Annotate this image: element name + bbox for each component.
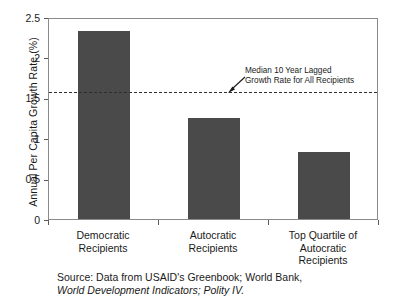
bar-democratic-recipients <box>78 31 130 219</box>
annotation-arrow-icon <box>225 76 247 94</box>
x-label-line: Recipients <box>158 242 268 255</box>
x-tick-mark <box>378 220 379 225</box>
median-annotation-line2: Growth Rate for All Recipients <box>245 76 354 86</box>
x-category-label-autocratic: Autocratic Recipients <box>158 229 268 254</box>
median-annotation-label: Median 10 Year Lagged Growth Rate for Al… <box>245 66 354 86</box>
x-tick-mark <box>268 220 269 225</box>
x-category-label-democratic: Democratic Recipients <box>48 229 158 254</box>
x-label-line: Top Quartile of <box>268 229 378 242</box>
x-label-line: Recipients <box>268 254 378 267</box>
y-tick-label-1.5: 1.5 <box>14 93 40 103</box>
x-tick-mark <box>158 220 159 225</box>
x-label-line: Democratic <box>48 229 158 242</box>
x-category-label-top-quartile: Top Quartile of Autocratic Recipients <box>268 229 378 267</box>
y-tick-label-0.5: 0.5 <box>14 174 40 184</box>
median-annotation-line1: Median 10 Year Lagged <box>245 66 354 76</box>
plot-area: Median 10 Year Lagged Growth Rate for Al… <box>48 18 378 220</box>
y-tick-label-0: 0 <box>14 215 40 225</box>
source-line-2: World Development Indicators; Polity IV. <box>57 284 387 297</box>
y-tick-label-1: 1 <box>14 134 40 144</box>
x-label-line: Autocratic <box>158 229 268 242</box>
source-line-1: Source: Data from USAID's Greenbook; Wor… <box>57 271 387 284</box>
bar-top-quartile-autocratic-recipients <box>298 152 350 219</box>
x-label-line: Recipients <box>48 242 158 255</box>
bar-chart-figure: Annual Per Capita Growth Rate (%) 2.5 2 … <box>0 0 397 302</box>
source-note: Source: Data from USAID's Greenbook; Wor… <box>57 271 387 297</box>
x-label-line: Autocratic <box>268 242 378 255</box>
y-axis-title: Annual Per Capita Growth Rate (%) <box>27 17 39 227</box>
bar-autocratic-recipients <box>188 118 240 219</box>
y-tick-label-2: 2 <box>14 53 40 63</box>
y-tick-label-2.5: 2.5 <box>14 13 40 23</box>
median-reference-line <box>49 92 377 93</box>
x-tick-mark <box>48 220 49 225</box>
